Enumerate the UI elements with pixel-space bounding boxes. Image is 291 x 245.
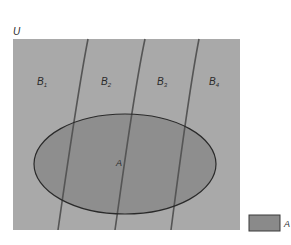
universe-label: U (13, 26, 21, 37)
set-a-label: A (115, 158, 122, 168)
legend-label-a: A (283, 219, 290, 229)
venn-partition-diagram: U B1 B2 B3 B4 A A (0, 0, 291, 245)
legend-swatch-a (249, 215, 280, 231)
